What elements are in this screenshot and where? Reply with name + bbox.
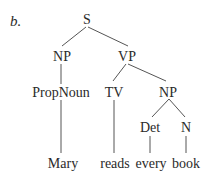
edge-s-vp [88,27,128,46]
leaf-every: every [135,157,166,171]
node-vp: VP [118,50,136,64]
leaf-mary: Mary [48,157,78,171]
leaf-book: book [172,157,200,171]
edge-np-det [152,99,169,117]
node-s: S [83,13,91,27]
figure-label: b. [10,13,21,30]
node-propnoun: PropNoun [32,86,90,100]
leaf-reads: reads [100,157,130,171]
node-det: Det [140,121,160,135]
edge-s-np [62,27,86,46]
node-tv: TV [105,86,124,100]
edge-np-n [169,99,185,117]
node-np-subject: NP [53,50,71,64]
node-n: N [181,121,191,135]
edge-vp-np [128,64,166,81]
node-np-object: NP [159,86,177,100]
edge-vp-tv [113,64,126,81]
